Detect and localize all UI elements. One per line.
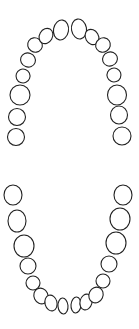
tooth-lower-left-first-premolar[interactable]	[26, 276, 40, 290]
tooth-lower-left-central-incisor[interactable]	[57, 298, 68, 315]
tooth-lower-right-third-molar[interactable]	[114, 185, 132, 205]
tooth-lower-left-first-molar[interactable]	[14, 235, 34, 257]
tooth-upper-left-second-premolar[interactable]	[14, 67, 32, 85]
tooth-upper-left-third-molar[interactable]	[8, 129, 25, 146]
tooth-upper-left-central-incisor[interactable]	[52, 19, 70, 41]
tooth-lower-left-second-premolar[interactable]	[20, 258, 36, 274]
tooth-lower-right-second-premolar[interactable]	[101, 256, 117, 272]
tooth-lower-right-first-premolar[interactable]	[96, 274, 110, 288]
tooth-upper-right-second-molar[interactable]	[111, 106, 128, 124]
tooth-upper-left-first-molar[interactable]	[10, 85, 30, 105]
lower-arch	[4, 185, 132, 314]
tooth-upper-right-second-premolar[interactable]	[105, 66, 123, 84]
tooth-upper-right-third-molar[interactable]	[113, 127, 131, 145]
tooth-upper-left-second-molar[interactable]	[9, 109, 26, 126]
tooth-lower-right-first-molar[interactable]	[106, 232, 126, 254]
tooth-lower-right-second-molar[interactable]	[110, 208, 130, 230]
tooth-lower-left-third-molar[interactable]	[4, 185, 22, 205]
tooth-lower-left-second-molar[interactable]	[8, 210, 26, 232]
dental-chart	[0, 0, 139, 329]
tooth-upper-left-first-premolar[interactable]	[19, 51, 38, 69]
upper-arch	[8, 18, 132, 146]
tooth-upper-right-first-molar[interactable]	[108, 85, 127, 105]
